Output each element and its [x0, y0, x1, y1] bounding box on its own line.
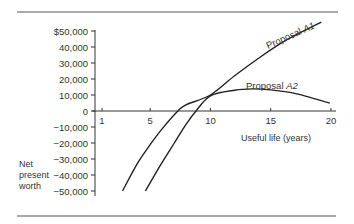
npw-chart: $50,00040,00030,00020,00010,0000−10,000−… — [0, 0, 354, 224]
series-label-proposal-a2: Proposal A2 — [246, 80, 298, 91]
y-axis-ticks: $50,00040,00030,00020,00010,0000−10,000−… — [53, 26, 95, 197]
y-tick-label: −10,000 — [53, 122, 88, 133]
y-tick-label: 10,000 — [59, 90, 88, 101]
x-tick-label: 10 — [205, 115, 216, 126]
x-tick-label: 5 — [148, 115, 153, 126]
y-tick-label: −40,000 — [53, 170, 88, 181]
x-tick-label: 1 — [99, 115, 104, 126]
x-tick-label: 15 — [265, 115, 276, 126]
y-tick-label: 20,000 — [59, 74, 88, 85]
y-axis-label: Net present worth — [18, 159, 52, 191]
series-line-proposal-a1 — [123, 22, 322, 191]
y-tick-label: −20,000 — [53, 138, 88, 149]
y-tick-label: $50,000 — [54, 26, 88, 37]
y-tick-label: 30,000 — [59, 58, 88, 69]
y-tick-label: −50,000 — [53, 186, 88, 197]
series-label-proposal-a1: Proposal A1 — [264, 20, 316, 51]
y-tick-label: 40,000 — [59, 42, 88, 53]
y-tick-label: 0 — [83, 106, 88, 117]
x-tick-label: 20 — [326, 115, 337, 126]
x-axis-label: Useful life (years) — [241, 133, 311, 143]
y-tick-label: −30,000 — [53, 154, 88, 165]
